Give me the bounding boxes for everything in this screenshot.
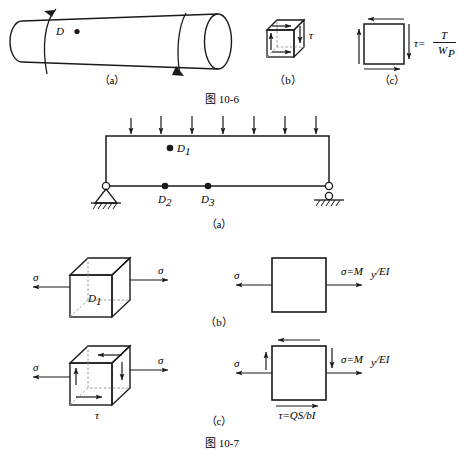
fig106-caption: 图 10-6 <box>205 93 239 105</box>
square-b7-sigma-formula-tail: /EI <box>375 265 391 277</box>
fig107-part-b-square: σ σ=M y /EI （b） <box>205 258 391 328</box>
beam-body <box>106 136 329 186</box>
cube-b7-right-face <box>112 258 130 317</box>
beam-point-D2-label: D <box>157 193 166 205</box>
fig107-sublabel-b: （b） <box>205 316 233 328</box>
fig107-sublabel-a: （a） <box>206 218 233 230</box>
cube-b7-point-sub: 1 <box>96 295 102 307</box>
shaft-right-face <box>205 14 232 69</box>
fig107-part-b-cube: σ σ D 1 <box>33 258 168 317</box>
shaft-bottom-line <box>22 62 218 69</box>
torque-arrow-left-head <box>44 10 55 17</box>
square-c7-tau-formula: τ=QS/bI <box>278 409 316 421</box>
fig107-part-a-beam: D 1 D 2 D 3 <box>91 116 344 230</box>
fig107-sublabel-c: （c） <box>206 415 233 427</box>
fig106-part-c-square: τ= T W P （c） <box>359 19 456 86</box>
square-c-tau-denominator: W <box>438 44 448 56</box>
beam-point-D1-label: D <box>176 142 185 154</box>
square-c7-outline <box>272 346 326 400</box>
fig106-part-b-cube: τ （b） <box>267 20 314 86</box>
beam-point-D3-marker <box>205 183 212 190</box>
beam-point-D2-sub: 2 <box>166 196 172 208</box>
torque-arrow-left-arc <box>44 9 56 74</box>
cube-b-right-face <box>294 20 304 57</box>
square-c-tau-lhs: τ= <box>414 37 425 49</box>
distributed-load-arrows <box>131 116 316 134</box>
beam-point-D3-sub: 3 <box>208 196 215 208</box>
fig106-part-a-shaft: D （a） <box>10 9 232 86</box>
cube-b7-point-label: D <box>87 292 96 304</box>
beam-point-D3-label: D <box>200 193 209 205</box>
fig107-part-c-square: σ σ=M y /EI τ=QS/bI （c） <box>206 340 391 427</box>
beam-point-D1-marker <box>167 145 174 152</box>
fig107-part-c-cube: σ σ τ <box>33 346 168 421</box>
fig106-sublabel-c: （c） <box>379 74 406 86</box>
cube-c7-tau-label: τ <box>95 409 100 421</box>
shaft-left-cap <box>10 21 22 62</box>
square-b7-outline <box>272 258 326 312</box>
beam-point-D2-marker <box>162 183 169 190</box>
square-c7-sigma-left-label: σ <box>234 357 240 369</box>
beam-point-D1-sub: 1 <box>185 145 191 157</box>
square-c7-sigma-formula-tail: /EI <box>375 353 391 365</box>
cube-b7-sigma-right-label: σ <box>158 264 164 276</box>
point-D-marker <box>74 29 79 34</box>
fig107-caption: 图 10-7 <box>205 437 239 449</box>
cube-b7-sigma-left-label: σ <box>33 271 39 283</box>
cube-c7-sigma-right-label: σ <box>158 354 164 366</box>
fig106-sublabel-b: （b） <box>274 74 302 86</box>
point-D-label: D <box>55 25 64 37</box>
fig106-sublabel-a: （a） <box>99 74 126 86</box>
square-c-tau-denominator-sub: P <box>447 47 455 59</box>
cube-b-tau-label: τ <box>309 29 314 41</box>
square-b7-sigma-formula: σ=M <box>341 265 364 277</box>
square-c-tau-numerator: T <box>441 29 448 41</box>
square-c7-sigma-formula: σ=M <box>341 353 364 365</box>
square-c-outline <box>364 24 404 64</box>
cube-c7-sigma-left-label: σ <box>33 361 39 373</box>
torque-arrow-right-arc <box>178 13 186 75</box>
square-b7-sigma-left-label: σ <box>234 269 240 281</box>
figure-page: D （a） τ （b） τ= T W P （c） 图 10-6 <box>0 0 464 461</box>
